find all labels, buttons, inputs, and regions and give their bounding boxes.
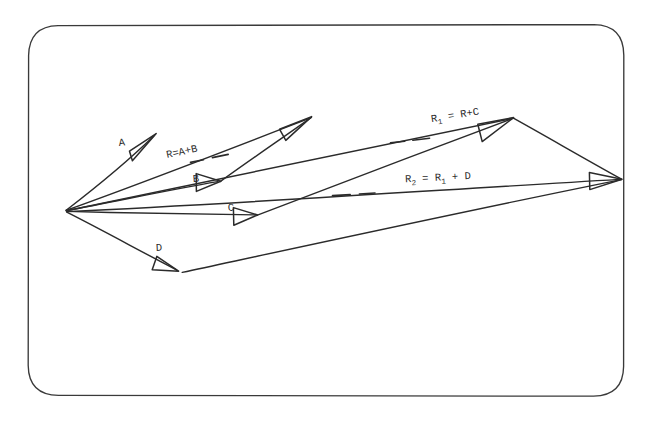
arrowhead-c [233, 208, 257, 226]
labels-group: A B C D R=A+B R1 = R+C R2 = R1 + D [118, 97, 536, 254]
frame-border [28, 25, 624, 397]
closure-d-tip-to-r2-tip [182, 180, 621, 273]
vector-diagram-svg: A B C D R=A+B R1 = R+C R2 = R1 + D [0, 0, 649, 422]
label-vector-b: B [192, 173, 199, 185]
leader-dash-r1-1 [391, 141, 405, 143]
label-vector-d: D [156, 242, 163, 254]
label-r1-rest: = R+C [441, 106, 480, 124]
vector-c-shaft [67, 211, 255, 215]
vector-a-shaft [66, 136, 153, 210]
label-leader-dashes-group [191, 138, 430, 195]
label-vector-c: C [227, 202, 234, 214]
leader-dash-r2-1 [333, 195, 351, 196]
label-r2-rest-2: + D [445, 170, 471, 183]
label-resultant-r: R=A+B [165, 143, 198, 161]
leader-dash-r2-2 [359, 193, 375, 194]
frame-group [28, 25, 624, 397]
label-resultant-r2-group: R2 = R1 + D [336, 167, 528, 191]
closure-c-tip-to-r1-tip [257, 118, 513, 215]
closure-r1-tip-to-r2-tip [513, 118, 621, 179]
vector-diagram-canvas: A B C D R=A+B R1 = R+C R2 = R1 + D [0, 0, 649, 422]
closure-b-tip-to-r-tip [221, 117, 312, 181]
label-r2-rest: = R [416, 171, 442, 184]
label-vector-a: A [118, 136, 126, 149]
label-resultant-r2: R2 = R1 + D [336, 167, 528, 191]
vector-r-shaft [66, 119, 308, 211]
vector-r1-shaft [66, 119, 510, 211]
